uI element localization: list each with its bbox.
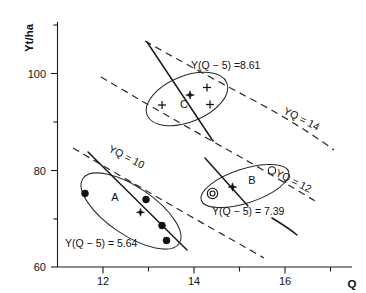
y-axis-title: Yt/ha (23, 23, 35, 52)
chart-figure: 100 80 60 12 14 16 Yt/ha Q (0, 0, 366, 293)
cluster-b-point-double-circle (207, 188, 217, 198)
cluster-a-label: A (111, 191, 119, 203)
cluster-a-point (163, 237, 170, 244)
y-tick-label-80: 80 (34, 165, 46, 177)
scatter-plot-canvas: 100 80 60 12 14 16 Yt/ha Q (0, 0, 366, 293)
cluster-a-group: A Y(Q − 5) = 5.64 (65, 152, 193, 263)
cluster-a-point (143, 196, 150, 203)
x-tick-label-14: 14 (188, 275, 200, 287)
x-tick-label-16: 16 (279, 275, 291, 287)
cluster-c-label: C (180, 98, 188, 110)
cluster-c-point-plus (158, 101, 166, 109)
iso-label-14: YQ = 14 (282, 104, 322, 132)
axis-group: 100 80 60 12 14 16 Yt/ha Q (23, 22, 357, 290)
cluster-c-equation: Y(Q − 5) =8.61 (191, 59, 261, 71)
cluster-b-leader-line (272, 218, 297, 235)
cluster-a-point (82, 190, 89, 197)
cluster-a-centroid-star-icon (137, 208, 145, 216)
cluster-a-equation: Y(Q − 5) = 5.64 (65, 237, 138, 249)
iso-label-10: YQ = 10 (107, 142, 147, 170)
cluster-c-point-plus (206, 101, 214, 109)
cluster-b-centroid-star-icon (228, 183, 236, 191)
y-tick-label-100: 100 (28, 68, 46, 80)
x-tick-label-12: 12 (97, 275, 109, 287)
x-axis-title: Q (348, 278, 357, 290)
cluster-a-point (159, 222, 166, 229)
cluster-b-label: B (248, 174, 255, 186)
cluster-c-point-plus (203, 84, 211, 92)
y-tick-label-60: 60 (34, 261, 46, 273)
iso-curve-12 (101, 77, 315, 201)
cluster-c-group: C Y(Q − 5) =8.61 (139, 42, 261, 141)
cluster-b-equation: Y(Q − 5) = 7.39 (212, 205, 285, 217)
iso-curve-14 (145, 41, 334, 150)
cluster-b-point-open-circle (268, 167, 275, 174)
